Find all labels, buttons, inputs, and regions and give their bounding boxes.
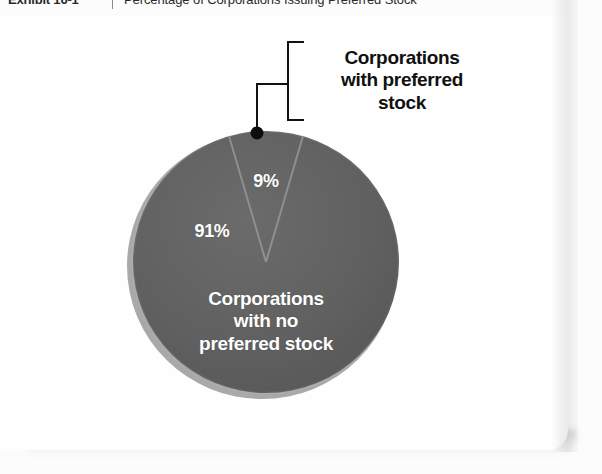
slice-label-line-2: with no: [176, 310, 356, 332]
caption-divider: [112, 0, 113, 9]
callout-label-line-3: stock: [313, 92, 491, 114]
exhibit-caption: Exhibit 16-1 Percentage of Corporations …: [0, 0, 602, 10]
callout-label-line-2: with preferred: [313, 69, 491, 91]
exhibit-number: Exhibit 16-1: [8, 0, 79, 7]
slice-value-preferred: 9%: [236, 171, 296, 192]
slice-label-line-1: Corporations: [176, 288, 356, 310]
slice-label-no-preferred: Corporations with no preferred stock: [176, 288, 356, 355]
slice-value-no-preferred: 91%: [177, 221, 247, 242]
pie-chart: Corporations with preferred stock 9% 91%…: [0, 16, 568, 450]
slice-label-line-3: preferred stock: [176, 333, 356, 355]
exhibit-title: Percentage of Corporations Issuing Prefe…: [124, 0, 417, 7]
callout-endpoint-dot: [251, 127, 264, 140]
callout-label-line-1: Corporations: [313, 47, 491, 69]
callout-bracket: [288, 42, 303, 120]
callout-label: Corporations with preferred stock: [313, 47, 491, 114]
exhibit-screenshot: Exhibit 16-1 Percentage of Corporations …: [0, 0, 602, 474]
